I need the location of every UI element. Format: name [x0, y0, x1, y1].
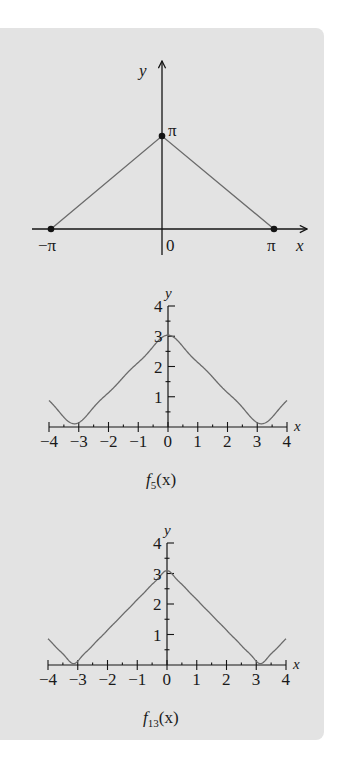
y-axis-label: y [162, 522, 171, 538]
y-axis-label: y [137, 61, 147, 80]
caption-subscript: 13 [148, 717, 160, 729]
y-tick-labels: 1234 [154, 297, 163, 407]
y-tick-labels: 1234 [153, 534, 162, 645]
caption-f5: f5(x) [146, 470, 176, 491]
origin-label: 0 [166, 236, 175, 255]
x-axis-label: x [293, 418, 301, 434]
x-tick-labels: −4−3−2−101234 [39, 670, 291, 689]
point-peak-pi [159, 133, 166, 140]
peak-label: π [168, 121, 177, 140]
figure-canvas: y x π −π 0 π y x −4−3−2−101234 1234 f5(x… [0, 0, 340, 775]
pi-label: π [267, 236, 276, 255]
point-pi [271, 226, 278, 233]
x-axis-label: x [292, 656, 300, 672]
y-axis-label: y [163, 285, 172, 301]
x-tick-labels: −4−3−2−101234 [40, 432, 292, 451]
point-neg-pi [48, 226, 55, 233]
graph-f13: y x −4−3−2−101234 1234 f13(x) [39, 522, 300, 729]
graph-triangle: y x π −π 0 π [32, 61, 307, 255]
neg-pi-label: −π [38, 236, 57, 255]
caption-f13: f13(x) [143, 708, 179, 729]
x-axis-label: x [295, 236, 304, 255]
caption-argument: (x) [156, 470, 176, 489]
graph-f5: y x −4−3−2−101234 1234 f5(x) [40, 285, 301, 491]
caption-argument: (x) [159, 708, 179, 727]
